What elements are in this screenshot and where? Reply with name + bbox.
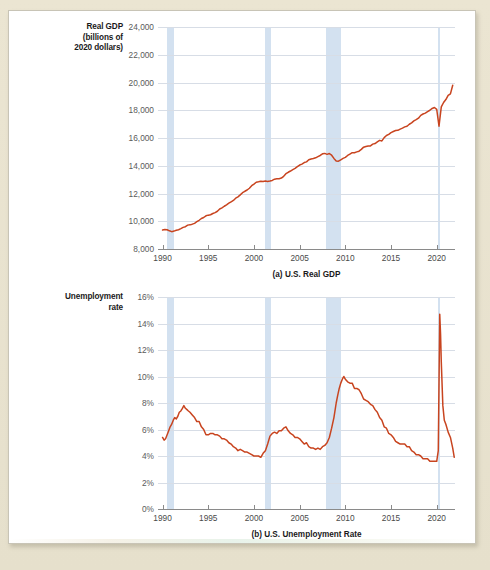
x-axis-line xyxy=(158,249,455,250)
chart-a-y-axis: 8,00010,00012,00014,00016,00018,00020,00… xyxy=(114,27,154,249)
y-axis-tick-label: 12,000 xyxy=(129,189,154,199)
x-axis-tick-mark xyxy=(437,505,438,509)
x-axis-tick-mark xyxy=(300,505,301,509)
x-axis-tick-mark xyxy=(345,245,346,249)
chart-b-y-axis: 0%2%4%6%8%10%12%14%16% xyxy=(114,297,154,509)
figure-panel: Real GDP (billions of 2020 dollars) 8,00… xyxy=(8,10,476,544)
x-axis-tick-label: 1995 xyxy=(199,253,217,263)
data-series-line xyxy=(163,314,455,461)
series-line-layer xyxy=(158,27,455,249)
chart-us-real-gdp: Real GDP (billions of 2020 dollars) 8,00… xyxy=(9,11,475,283)
x-axis-tick-mark xyxy=(163,245,164,249)
y-axis-tick-label: 8% xyxy=(142,398,154,408)
x-axis-line xyxy=(158,509,455,510)
x-axis-tick-mark xyxy=(163,505,164,509)
y-axis-tick-label: 24,000 xyxy=(129,22,154,32)
chart-b-caption: (b) U.S. Unemployment Rate xyxy=(158,530,455,539)
y-axis-tick-label: 22,000 xyxy=(129,50,154,60)
chart-b-plot-area xyxy=(158,297,455,509)
x-axis-tick-label: 2005 xyxy=(290,513,308,523)
chart-a-axis-title-line-2: (billions of xyxy=(15,33,123,44)
x-axis-tick-mark xyxy=(208,245,209,249)
series-line-layer xyxy=(158,297,455,509)
x-axis-tick-mark xyxy=(391,245,392,249)
x-axis-tick-mark xyxy=(254,505,255,509)
chart-b-axis-title: Unemployment rate xyxy=(15,292,123,313)
x-axis-tick-label: 2015 xyxy=(382,253,400,263)
y-axis-tick-label: 0% xyxy=(142,504,154,514)
y-axis-tick-label: 14% xyxy=(137,319,154,329)
y-axis-tick-label: 16% xyxy=(137,292,154,302)
x-axis-tick-label: 2015 xyxy=(382,513,400,523)
chart-a-x-axis: 1990199520002005201020152020 xyxy=(158,249,455,271)
y-axis-tick-label: 20,000 xyxy=(129,78,154,88)
y-axis-tick-label: 10,000 xyxy=(129,216,154,226)
x-axis-tick-mark xyxy=(254,245,255,249)
chart-a-plot-area xyxy=(158,27,455,249)
x-axis-tick-label: 2020 xyxy=(427,513,445,523)
data-series-line xyxy=(163,85,453,231)
chart-b-axis-title-line-2: rate xyxy=(15,303,123,314)
x-axis-tick-label: 2010 xyxy=(336,513,354,523)
y-axis-tick-label: 4% xyxy=(142,451,154,461)
chart-us-unemployment-rate: Unemployment rate 0%2%4%6%8%10%12%14%16%… xyxy=(9,283,475,543)
chart-a-axis-title-line-1: Real GDP xyxy=(15,22,123,33)
x-axis-tick-mark xyxy=(437,245,438,249)
chart-a-caption: (a) U.S. Real GDP xyxy=(158,270,455,279)
x-axis-tick-label: 2000 xyxy=(245,513,263,523)
chart-a-axis-title: Real GDP (billions of 2020 dollars) xyxy=(15,22,123,54)
scan-artifact-strip xyxy=(9,539,475,543)
x-axis-tick-label: 2000 xyxy=(245,253,263,263)
x-axis-tick-label: 1990 xyxy=(153,513,171,523)
x-axis-tick-mark xyxy=(300,245,301,249)
y-axis-tick-label: 16,000 xyxy=(129,133,154,143)
x-axis-tick-label: 2005 xyxy=(290,253,308,263)
x-axis-tick-mark xyxy=(208,505,209,509)
x-axis-tick-mark xyxy=(391,505,392,509)
y-axis-tick-label: 6% xyxy=(142,425,154,435)
y-axis-tick-label: 10% xyxy=(137,372,154,382)
x-axis-tick-label: 2020 xyxy=(427,253,445,263)
y-axis-tick-label: 14,000 xyxy=(129,161,154,171)
x-axis-tick-label: 1990 xyxy=(153,253,171,263)
chart-b-axis-title-line-1: Unemployment xyxy=(15,292,123,303)
x-axis-tick-label: 2010 xyxy=(336,253,354,263)
chart-b-x-axis: 1990199520002005201020152020 xyxy=(158,509,455,531)
figure-page: Real GDP (billions of 2020 dollars) 8,00… xyxy=(0,0,490,570)
y-axis-tick-label: 12% xyxy=(137,345,154,355)
y-axis-tick-label: 2% xyxy=(142,478,154,488)
chart-a-axis-title-line-3: 2020 dollars) xyxy=(15,43,123,54)
x-axis-tick-mark xyxy=(345,505,346,509)
y-axis-tick-label: 8,000 xyxy=(133,244,154,254)
x-axis-tick-label: 1995 xyxy=(199,513,217,523)
y-axis-tick-label: 18,000 xyxy=(129,105,154,115)
